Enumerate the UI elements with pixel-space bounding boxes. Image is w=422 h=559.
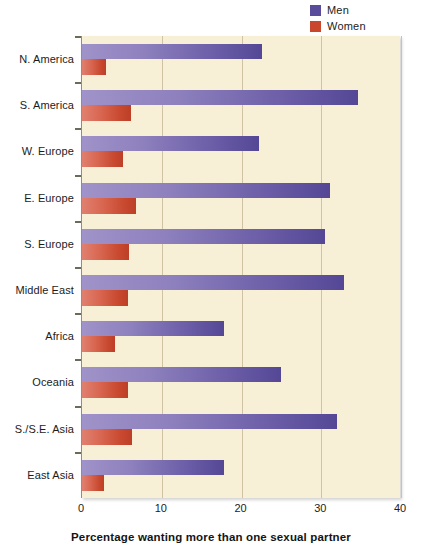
bar-group: [82, 359, 400, 405]
bar-group: [82, 36, 400, 82]
bar-women: [82, 105, 131, 121]
legend-label-men: Men: [327, 5, 349, 16]
y-axis-label-n-america: N. America: [19, 53, 74, 65]
y-axis-label-w-europe: W. Europe: [22, 145, 74, 157]
bar-women: [82, 429, 132, 445]
x-axis-tick-0: 0: [78, 502, 84, 515]
bar-women: [82, 59, 106, 75]
bar-women: [82, 244, 129, 260]
bar-group: [82, 175, 400, 221]
bar-group: [82, 452, 400, 498]
bar-group: [82, 406, 400, 452]
bar-men: [82, 275, 344, 290]
bar-women: [82, 382, 128, 398]
bar-women: [82, 151, 123, 167]
x-axis-tick-labels: 010203040: [0, 502, 422, 518]
y-axis-label-s-europe: S. Europe: [24, 238, 74, 250]
bar-men: [82, 90, 358, 105]
bar-women: [82, 475, 104, 491]
bar-group: [82, 128, 400, 174]
y-axis-label-africa: Africa: [45, 330, 74, 342]
y-axis-label-middle-east: Middle East: [15, 284, 74, 296]
legend-swatch-men: [310, 5, 321, 16]
y-axis-label-east-asia: East Asia: [27, 469, 74, 481]
legend-item-men: Men: [310, 4, 366, 17]
x-axis-tick-30: 30: [314, 502, 326, 515]
legend-item-women: Women: [310, 20, 366, 33]
x-axis-tick-10: 10: [155, 502, 167, 515]
chart-legend: Men Women: [310, 4, 366, 33]
legend-label-women: Women: [327, 21, 366, 32]
x-axis-title: Percentage wanting more than one sexual …: [0, 531, 422, 543]
bar-women: [82, 290, 128, 306]
y-axis-label-s-america: S. America: [20, 99, 74, 111]
y-axis-label-e-europe: E. Europe: [24, 192, 74, 204]
bar-men: [82, 183, 330, 198]
bar-men: [82, 229, 325, 244]
legend-swatch-women: [310, 21, 321, 32]
chart-bars-layer: [82, 36, 400, 498]
x-axis-tick-20: 20: [234, 502, 246, 515]
bar-group: [82, 313, 400, 359]
bar-men: [82, 321, 224, 336]
chart-plot-area: [81, 36, 400, 498]
y-axis-label-s-s-e-asia: S./S.E. Asia: [15, 423, 74, 435]
bar-group: [82, 82, 400, 128]
x-axis-tick-40: 40: [394, 502, 406, 515]
bar-men: [82, 367, 281, 382]
bar-men: [82, 460, 224, 475]
bar-group: [82, 221, 400, 267]
y-axis-category-labels: N. AmericaS. AmericaW. EuropeE. EuropeS.…: [0, 36, 74, 498]
y-axis-label-oceania: Oceania: [32, 376, 74, 388]
gridline-40: [401, 36, 402, 498]
bar-men: [82, 414, 337, 429]
bar-men: [82, 44, 262, 59]
bar-men: [82, 136, 259, 151]
bar-women: [82, 336, 115, 352]
bar-women: [82, 198, 136, 214]
bar-group: [82, 267, 400, 313]
